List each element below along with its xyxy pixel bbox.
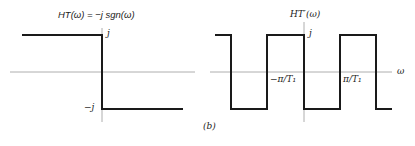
right-tick-pos: π/T₁	[343, 74, 362, 84]
left-plot-title: HT(ω) = −j sgn(ω)	[58, 9, 135, 20]
right-tick-neg: −π/T₁	[270, 74, 296, 84]
left-lower-level-label: −j	[84, 102, 94, 112]
right-plot-title: HT′(ω)	[290, 9, 320, 19]
figure-caption: (b)	[203, 121, 216, 131]
left-upper-level-label: j	[107, 28, 110, 38]
right-upper-level-label: j	[309, 28, 312, 38]
right-x-axis-label: ω	[397, 66, 404, 76]
